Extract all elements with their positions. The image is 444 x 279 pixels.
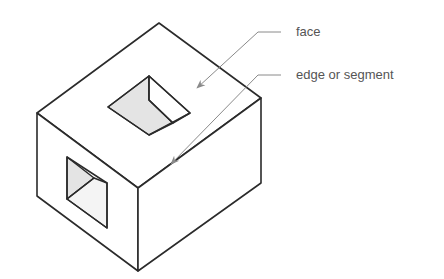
label-edge-or-segment: edge or segment: [296, 68, 394, 81]
block-drawing: [0, 0, 444, 279]
diagram-canvas: face edge or segment: [0, 0, 444, 279]
label-face: face: [296, 25, 321, 38]
